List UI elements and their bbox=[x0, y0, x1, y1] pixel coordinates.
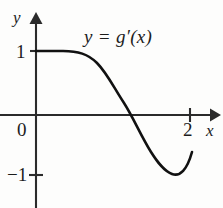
curve-g-prime bbox=[36, 51, 192, 175]
x-tick-label-two: 2 bbox=[183, 120, 193, 139]
y-tick-label-minus-one: −1 bbox=[7, 165, 27, 184]
x-axis-label: x bbox=[206, 122, 214, 139]
y-axis-arrow-icon bbox=[30, 12, 43, 24]
y-axis-label: y bbox=[13, 9, 21, 26]
y-tick-label-one: 1 bbox=[16, 42, 26, 61]
x-axis-arrow-icon bbox=[210, 109, 221, 122]
origin-label: 0 bbox=[17, 120, 27, 139]
graph-figure: y x 1 0 −1 2 y = g′(x) bbox=[0, 0, 223, 208]
curve-equation-label: y = g′(x) bbox=[84, 27, 152, 46]
